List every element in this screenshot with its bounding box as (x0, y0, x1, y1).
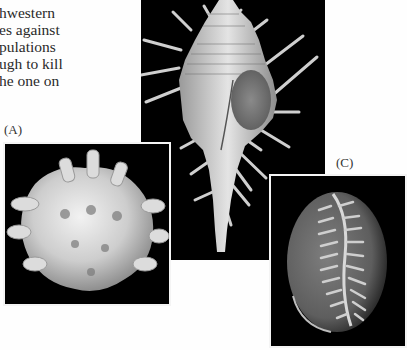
knobbed-shell-image (5, 144, 169, 304)
cowrie-shell-image (271, 176, 405, 346)
text-line: he one on (0, 72, 63, 89)
figure-label-a: (A) (4, 122, 22, 138)
text-line: pulations (0, 38, 63, 55)
text-line: es against (0, 21, 63, 38)
text-line: ugh to kill (0, 55, 63, 72)
body-text: hwestern es against pulations ugh to kil… (0, 4, 63, 89)
text-line: hwestern (0, 4, 63, 21)
figure-label-c: (C) (336, 155, 353, 171)
figure-a-photo (3, 142, 171, 306)
figure-c-photo (269, 174, 407, 348)
